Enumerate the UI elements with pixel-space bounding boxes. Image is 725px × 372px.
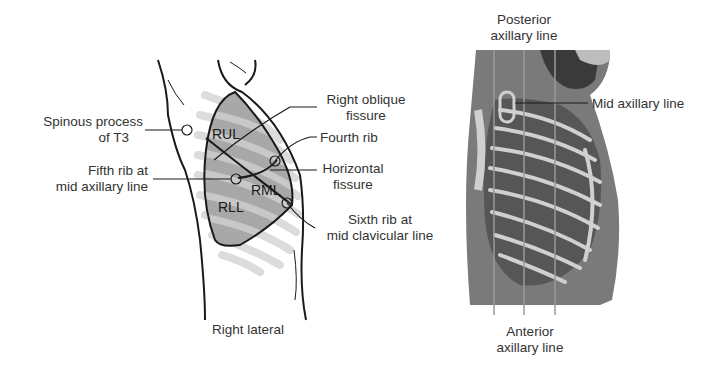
label-spinous-process: Spinous process of T3 <box>20 114 143 146</box>
label-posterior-axillary: Posterior axillary line <box>474 12 574 44</box>
label-mid-axillary: Mid axillary line <box>592 96 684 112</box>
lobe-rll: RLL <box>218 199 244 215</box>
caption-right-lateral: Right lateral <box>212 322 284 338</box>
lateral-torso-photo <box>466 50 619 305</box>
spinous-process-marker <box>182 125 192 135</box>
label-horizontal-fissure: Horizontal fissure <box>316 161 390 193</box>
lobe-rml: RML <box>251 182 281 198</box>
label-anterior-axillary: Anterior axillary line <box>490 324 570 356</box>
label-fourth-rib: Fourth rib <box>320 130 378 146</box>
label-oblique-fissure: Right oblique fissure <box>318 92 414 124</box>
lobe-rul: RUL <box>212 126 240 142</box>
label-fifth-rib: Fifth rib at mid axillary line <box>20 163 148 195</box>
label-sixth-rib: Sixth rib at mid clavicular line <box>316 212 444 244</box>
